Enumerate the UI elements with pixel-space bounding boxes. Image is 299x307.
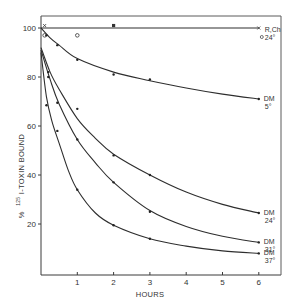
curve-dm-5 [41, 28, 259, 99]
series-label-line2: 24° [265, 217, 276, 224]
dot-marker [149, 238, 151, 240]
curve-dm-37 [41, 53, 259, 254]
plot-frame [41, 16, 281, 275]
y-axis-title: % 125 I-TOXIN BOUND [13, 134, 26, 219]
y-axis-title-main: I-TOXIN BOUND [17, 134, 26, 195]
series-label-line1: R,Ch [265, 26, 281, 33]
dot-marker [47, 76, 49, 78]
x-tick-label: 1 [75, 278, 80, 287]
y-tick-label: 80 [27, 73, 36, 82]
dot-marker [149, 174, 151, 176]
dot-marker [258, 241, 260, 243]
series-label-dm-37: DM37° [264, 249, 276, 264]
figure-canvas: 12345620406080100 R,Ch24°DM5°DM24°DM31°D… [0, 0, 299, 307]
series-label-r-ch-24: R,Ch24° [265, 26, 281, 41]
dot-marker [258, 98, 260, 100]
dot-marker [149, 211, 151, 213]
cross-marker [43, 24, 46, 27]
series-label-line1: DM [264, 249, 275, 256]
x-tick-label: 4 [184, 278, 189, 287]
y-tick-label: 20 [27, 220, 36, 229]
x-axis-title: HOURS [136, 290, 165, 299]
dot-marker [76, 189, 78, 191]
dot-marker [45, 34, 47, 36]
y-axis-title-percent: % [17, 211, 26, 218]
dot-marker [45, 104, 47, 106]
axis-ticks: 12345620406080100 [23, 24, 262, 287]
data-curves [41, 28, 259, 253]
svg-text:% 125 I-TOXIN BOU: % 125 I-TOXIN BOUND [13, 134, 26, 219]
filled-marker [112, 24, 115, 27]
series-label-line1: DM [264, 95, 275, 102]
series-label-line2: 37° [265, 257, 276, 264]
dot-marker [258, 252, 260, 254]
dot-marker [76, 108, 78, 110]
dot-marker [76, 59, 78, 61]
dot-marker [56, 130, 58, 132]
series-label-dm-24: DM24° [264, 209, 276, 224]
legend-open-circle-icon [260, 36, 263, 39]
dot-marker [47, 71, 49, 73]
dot-marker [112, 224, 114, 226]
series-label-line2: 24° [265, 34, 276, 41]
dot-marker [76, 138, 78, 140]
y-tick-label: 60 [27, 122, 36, 131]
dot-marker [149, 78, 151, 80]
series-label-line1: DM [264, 209, 275, 216]
curve-dm-24 [41, 48, 259, 213]
x-tick-label: 6 [257, 278, 262, 287]
x-tick-label: 3 [148, 278, 153, 287]
y-axis-title-isotope: 125 [15, 197, 21, 206]
y-tick-label: 100 [23, 24, 37, 33]
series-label-line2: 5° [265, 103, 272, 110]
x-tick-label: 5 [220, 278, 225, 287]
dot-marker [112, 181, 114, 183]
dot-marker [258, 212, 260, 214]
y-tick-label: 40 [27, 171, 36, 180]
data-points [43, 24, 260, 255]
dot-marker [112, 73, 114, 75]
dot-marker [56, 44, 58, 46]
dot-marker [112, 154, 114, 156]
open-circle-marker [76, 34, 80, 38]
dot-marker [56, 102, 58, 104]
series-labels: R,Ch24°DM5°DM24°DM31°DM37° [260, 26, 281, 264]
series-label-line1: DM [264, 238, 275, 245]
x-tick-label: 2 [111, 278, 116, 287]
series-label-dm-5: DM5° [264, 95, 275, 110]
